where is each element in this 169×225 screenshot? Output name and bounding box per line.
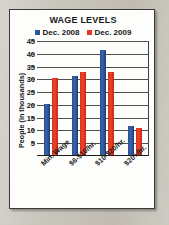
bar-group xyxy=(100,40,114,155)
y-tick-mark xyxy=(31,53,35,54)
y-tick-mark xyxy=(31,104,35,105)
bar xyxy=(72,76,78,155)
y-tick-mark xyxy=(31,130,35,131)
y-tick-mark xyxy=(31,92,35,93)
y-tick-mark xyxy=(31,117,35,118)
y-tick-mark xyxy=(31,41,35,42)
y-tick-mark xyxy=(31,66,35,67)
legend-swatch-icon xyxy=(87,30,92,35)
legend-item-dec-2008: Dec. 2008 xyxy=(35,28,80,37)
x-axis-labels: Min. Wage$6-$10/hr.$10-$20/hr.$20+/hr. xyxy=(37,158,159,206)
y-tick-mark xyxy=(31,143,35,144)
chart-title: WAGE LEVELS xyxy=(10,15,156,25)
plot-wrapper: 45403530252015105 xyxy=(37,41,149,156)
plot-area xyxy=(37,41,149,156)
legend-label: Dec. 2008 xyxy=(43,28,80,37)
y-axis-ticks: 45403530252015105 xyxy=(18,41,35,156)
bars-container xyxy=(37,40,149,155)
legend-item-dec-2009: Dec. 2009 xyxy=(87,28,132,37)
bar-group xyxy=(128,40,142,155)
bar xyxy=(100,50,106,155)
bar xyxy=(80,72,86,155)
bar xyxy=(44,104,50,155)
bar-group xyxy=(72,40,86,155)
chart-panel: WAGE LEVELS Dec. 2008 Dec. 2009 People (… xyxy=(9,9,155,209)
bar-group xyxy=(44,40,58,155)
y-tick-mark xyxy=(31,79,35,80)
legend-label: Dec. 2009 xyxy=(95,28,132,37)
legend-swatch-icon xyxy=(35,30,40,35)
